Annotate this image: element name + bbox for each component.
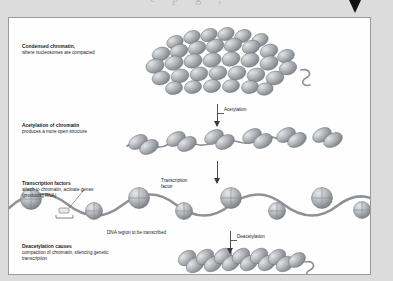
label-tf-heading: Transcription factors bbox=[22, 181, 71, 186]
stage-deacetylated-coil bbox=[175, 245, 314, 274]
label-condensed-heading: Condensed chromatin, bbox=[22, 44, 75, 49]
label-acetylation-heading: Acetylation of chromatin bbox=[22, 123, 79, 128]
label-tf-body: attach to chromatin, activate genes (pro… bbox=[22, 187, 93, 198]
label-deacetylation: Deacetylation causes compaction of chrom… bbox=[22, 244, 114, 263]
label-transcription-factors: Transcription factors attach to chromati… bbox=[22, 181, 102, 200]
deacetylation-label: Deacetylation bbox=[237, 234, 265, 239]
transcription-arrow bbox=[213, 161, 222, 183]
label-deacetylation-heading: Deacetylation causes bbox=[22, 244, 72, 249]
deacetylation-leader-line bbox=[230, 235, 237, 241]
acetylation-label: Acetylation bbox=[224, 107, 246, 112]
stage-condensed-cluster bbox=[144, 25, 310, 97]
label-condensed-chromatin: Condensed chromatin, where nucleosomes a… bbox=[22, 44, 102, 56]
cutoff-caption-text: e p g , bbox=[150, 0, 228, 6]
label-deacetylation-body: compaction of chromatin, silencing genet… bbox=[22, 250, 109, 261]
stage-acetylated-open bbox=[126, 124, 345, 157]
acetylation-leader-line bbox=[217, 108, 224, 114]
figure-panel: Condensed chromatin, where nucleosomes a… bbox=[8, 17, 371, 275]
down-triangle-icon bbox=[349, 0, 361, 13]
label-acetylation-body: produces a more open structure bbox=[22, 129, 87, 134]
dna-region-callout: DNA region to be transcribed bbox=[107, 230, 166, 235]
transcription-factor-callout: Transcription factor bbox=[161, 178, 195, 190]
label-acetylation-of-chromatin: Acetylation of chromatin produces a more… bbox=[22, 123, 102, 135]
label-condensed-body: where nucleosomes are compacted bbox=[22, 50, 95, 55]
top-ghost-strip: e p g , bbox=[0, 0, 393, 16]
